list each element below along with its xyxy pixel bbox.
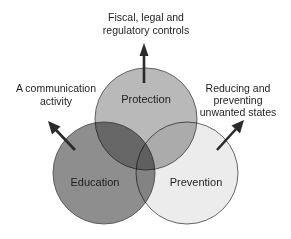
left-annotation-line-1: A communication: [16, 82, 96, 94]
prevention-label: Prevention: [170, 176, 223, 188]
left-annotation-line-2: activity: [40, 95, 73, 107]
protection-label: Protection: [121, 93, 171, 105]
left-annotation: A communication activity: [16, 82, 96, 107]
right-annotation-line-1: Reducing and: [206, 82, 271, 94]
right-annotation-line-3: unwanted states: [200, 106, 276, 118]
prevention-circle: [136, 122, 238, 224]
education-label: Education: [71, 176, 120, 188]
top-annotation-line-1: Fiscal, legal and: [108, 11, 184, 23]
top-annotation: Fiscal, legal and regulatory controls: [103, 11, 189, 36]
venn-diagram: Protection Education Prevention Fiscal, …: [0, 0, 291, 239]
right-annotation-line-2: preventing: [213, 94, 262, 106]
top-annotation-line-2: regulatory controls: [103, 24, 189, 36]
right-annotation: Reducing and preventing unwanted states: [200, 82, 276, 118]
